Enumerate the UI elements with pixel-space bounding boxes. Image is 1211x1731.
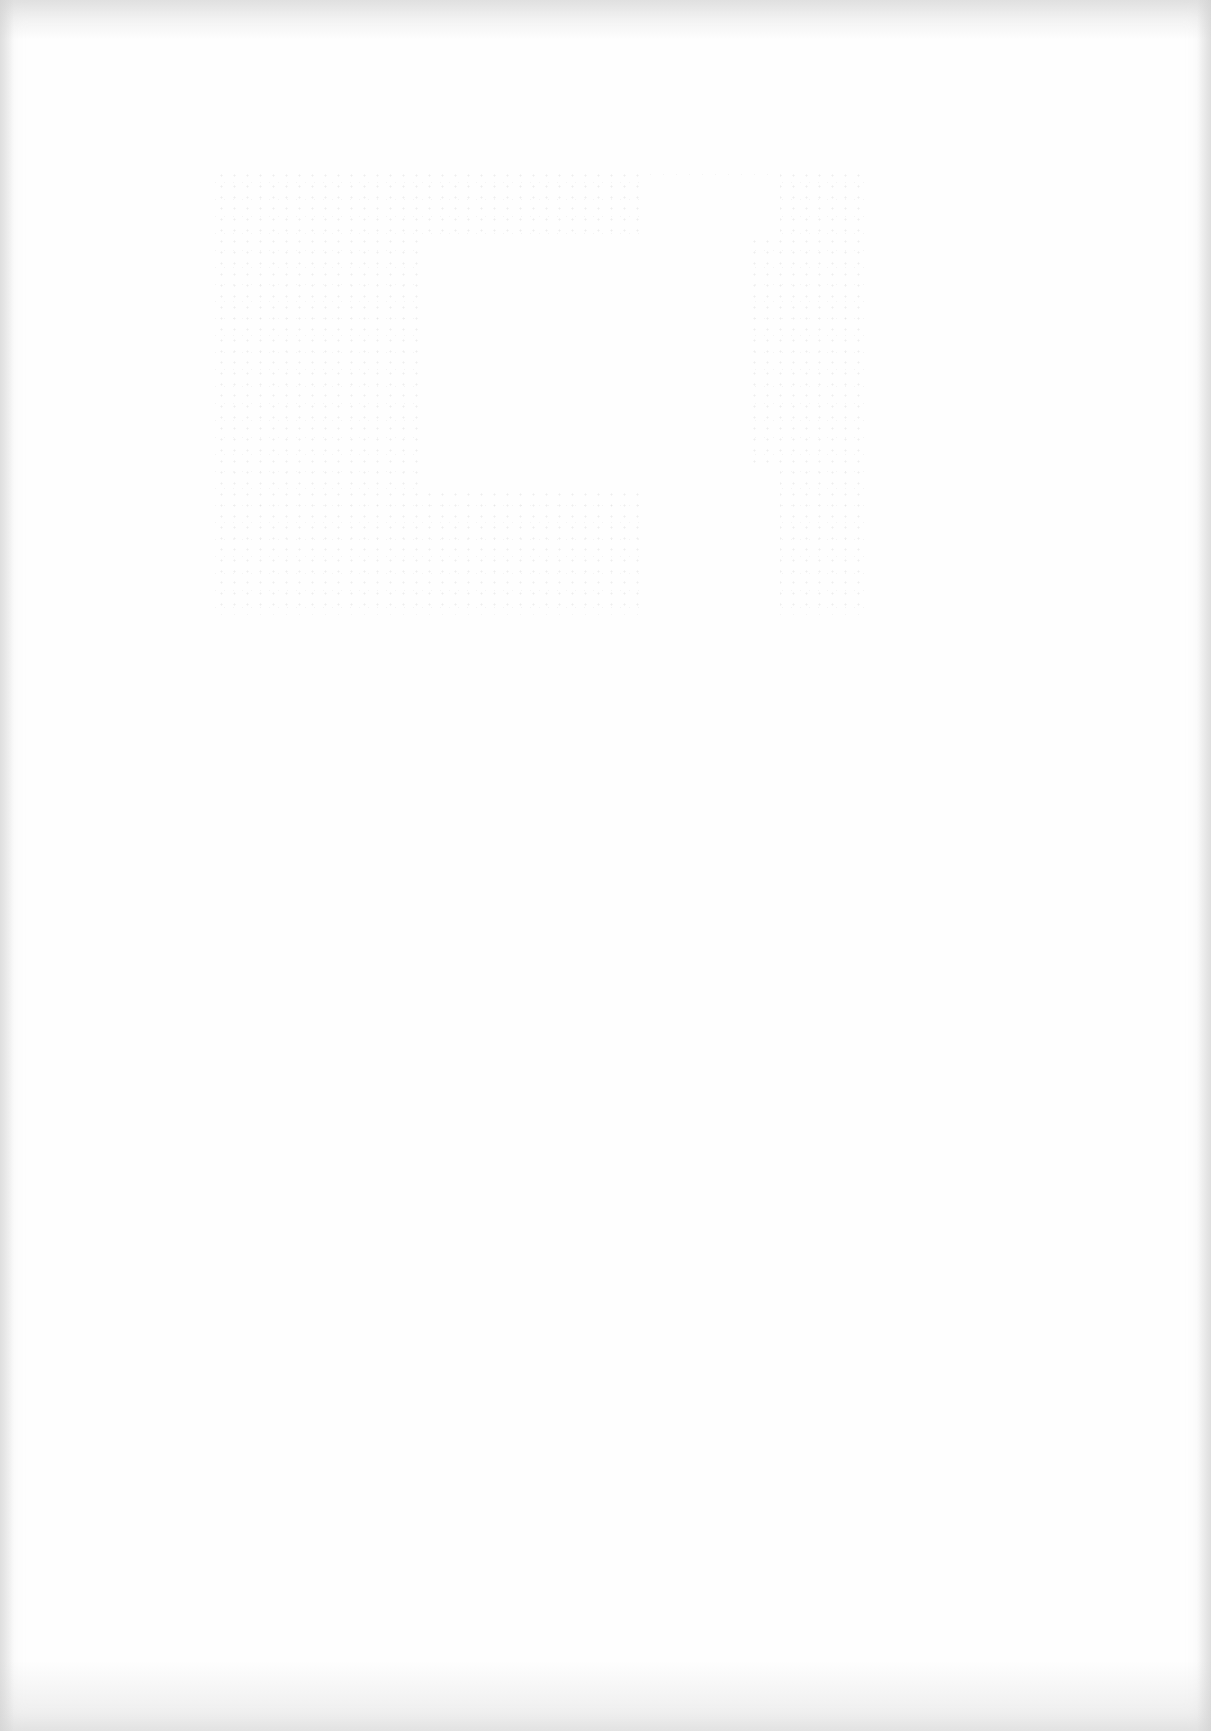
speckle-gap bbox=[420, 240, 750, 490]
scan-edge-bottom bbox=[0, 1661, 1211, 1731]
speckle-gap bbox=[640, 470, 780, 615]
scan-edge-top bbox=[0, 0, 1211, 40]
speckle-gap bbox=[640, 175, 780, 235]
scan-edge-right bbox=[1197, 0, 1211, 1731]
blank-document-page bbox=[0, 0, 1211, 1731]
scan-edge-left bbox=[0, 0, 14, 1731]
